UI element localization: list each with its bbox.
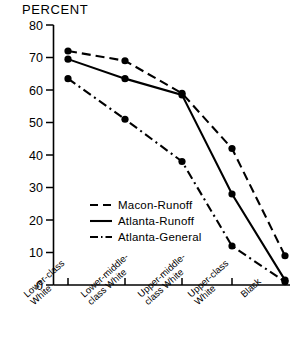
data-point (178, 158, 185, 165)
series-line-2 (68, 79, 285, 282)
legend-label-2: Atlanta-General (118, 231, 202, 243)
data-point (121, 75, 128, 82)
series-layer (64, 47, 288, 285)
data-point (64, 47, 71, 54)
data-point (228, 145, 235, 152)
y-axis-ticks (46, 25, 54, 285)
data-point (121, 57, 128, 64)
line-chart: PERCENT 80706050403020100 Macon-RunoffAt… (0, 0, 298, 351)
y-axis-tick-label: 70 (29, 51, 43, 65)
data-point (228, 242, 235, 249)
data-point (281, 252, 288, 259)
y-axis-tick-label: 80 (29, 19, 43, 33)
data-point (178, 91, 185, 98)
data-point (121, 116, 128, 123)
data-point (281, 278, 288, 285)
chart-legend: Macon-RunoffAtlanta-RunoffAtlanta-Genera… (90, 199, 202, 243)
y-axis-tick-label: 20 (29, 214, 43, 228)
legend-label-0: Macon-Runoff (118, 199, 193, 211)
y-axis-tick-label: 40 (29, 149, 43, 163)
y-axis-tick-label: 60 (29, 84, 43, 98)
data-point (228, 190, 235, 197)
y-axis-tick-label: 50 (29, 116, 43, 130)
y-axis-tick-label: 10 (29, 246, 43, 260)
data-point (64, 56, 71, 63)
data-point (64, 75, 71, 82)
y-axis-tick-labels: 80706050403020100 (29, 19, 43, 293)
series-line-1 (68, 59, 285, 280)
y-axis-tick-label: 30 (29, 181, 43, 195)
legend-label-1: Atlanta-Runoff (118, 215, 195, 227)
